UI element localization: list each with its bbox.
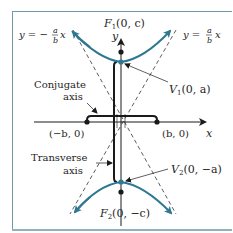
asymptote-left-frac-num: a: [53, 26, 58, 35]
vertex-top-label: V1(0, a): [169, 83, 211, 97]
asymptote-right-label: y =: [182, 29, 200, 40]
focus-top-label: F1(0, c): [103, 17, 145, 31]
focus-bottom-point: [118, 189, 123, 194]
point-plus-b-label: (b, 0): [162, 128, 189, 139]
transverse-axis-label-line2: axis: [63, 165, 83, 176]
focus-bottom-label: F2(0, −c): [99, 207, 150, 221]
asymptote-right-var: x: [215, 29, 221, 40]
vertex-top-point: [118, 59, 123, 64]
conjugate-axis-label-line2: axis: [63, 91, 83, 102]
x-axis-label: x: [206, 127, 213, 140]
figure-frame: [13, 12, 233, 230]
point-minus-b: [84, 119, 89, 124]
vertex-bottom-label: V2(0, −a): [171, 163, 222, 177]
hyperbola-diagram: F1(0, c) y y = − a b x y = a b x V1(0, a…: [0, 0, 232, 233]
y-axis-label: y: [111, 30, 119, 43]
vertex-bottom-point: [118, 179, 123, 184]
asymptote-left-var: x: [60, 29, 66, 40]
focus-top-point: [118, 49, 123, 54]
point-plus-b: [154, 119, 159, 124]
asymptote-right-frac-num: a: [207, 26, 212, 35]
asymptote-left-frac-den: b: [53, 36, 58, 45]
conjugate-axis-label-line1: Conjugate: [34, 79, 86, 90]
asymptote-right-frac-den: b: [207, 36, 212, 45]
asymptote-left-label: y = −: [18, 29, 48, 40]
point-minus-b-label: (−b, 0): [49, 128, 84, 139]
transverse-axis-label-line1: Transverse: [31, 152, 87, 163]
